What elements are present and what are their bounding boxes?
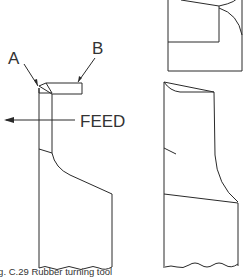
label-feed: FEED — [80, 112, 125, 131]
top-view — [168, 0, 242, 71]
figure-caption: ig. C.29 Rubber turning tool — [0, 266, 112, 277]
label-b: B — [92, 39, 103, 58]
callouts: A B FEED — [4, 39, 125, 131]
front-view — [164, 82, 238, 268]
label-a: A — [8, 49, 20, 68]
tool-drawing: A B FEED — [0, 0, 245, 279]
side-view — [39, 83, 112, 270]
